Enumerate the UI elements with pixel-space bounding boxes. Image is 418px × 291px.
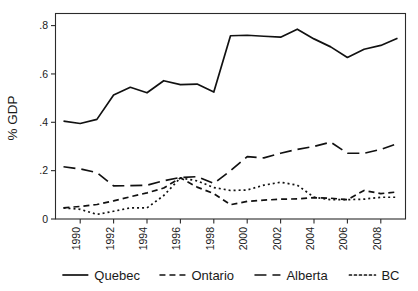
x-tick-label: 2004: [304, 227, 316, 251]
legend-label-alberta: Alberta: [286, 268, 328, 283]
x-tick-label: 2006: [337, 227, 349, 251]
y-tick-label: 0: [42, 213, 48, 225]
x-tick-label: 1992: [104, 227, 116, 251]
y-axis-title: % GDP: [5, 95, 20, 140]
series-line-alberta: [64, 142, 398, 186]
legend-label-bc: BC: [381, 268, 399, 283]
x-tick-label: 1998: [204, 227, 216, 251]
chart-canvas: 0.2.4.6.8 199019921994199619982000200220…: [0, 0, 418, 291]
x-tick-label: 2000: [237, 227, 249, 251]
y-tick-label: .8: [39, 19, 48, 31]
series-line-bc: [64, 178, 398, 215]
y-tick-label: .2: [39, 164, 48, 176]
chart-legend: QuebecOntarioAlbertaBC: [62, 268, 399, 283]
x-tick-label: 2008: [371, 227, 383, 251]
x-tick-label: 1990: [70, 227, 82, 251]
x-tick-label: 2002: [271, 227, 283, 251]
x-tick-label: 1996: [170, 227, 182, 251]
legend-label-quebec: Quebec: [94, 268, 140, 283]
y-tick-label: .6: [39, 68, 48, 80]
plot-frame: [56, 14, 406, 220]
series-line-quebec: [64, 29, 398, 123]
x-axis-ticks: 1990199219941996199820002002200420062008: [70, 219, 383, 250]
x-tick-label: 1994: [137, 227, 149, 251]
legend-label-ontario: Ontario: [191, 268, 234, 283]
y-tick-label: .4: [39, 116, 48, 128]
series-line-ontario: [64, 178, 398, 208]
series-group: [64, 29, 398, 214]
line-chart: 0.2.4.6.8 199019921994199619982000200220…: [0, 0, 418, 291]
y-axis-ticks: 0.2.4.6.8: [39, 19, 55, 224]
